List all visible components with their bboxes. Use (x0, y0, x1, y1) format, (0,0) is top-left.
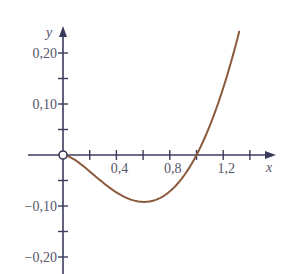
x-tick-label: 0,4 (111, 161, 129, 176)
x-tick-label: 0,8 (164, 161, 182, 176)
y-tick-label: −0,10 (25, 199, 57, 214)
y-axis-arrow-icon (59, 26, 67, 37)
x-axis-label: x (265, 160, 273, 175)
chart: 0,40,81,20,200,10−0,10−0,20 x y (0, 0, 288, 274)
function-curve (63, 32, 239, 202)
open-circle-origin (59, 151, 67, 159)
x-tick-label: 1,2 (217, 161, 235, 176)
y-tick-label: 0,10 (33, 97, 58, 112)
axes (28, 26, 276, 274)
y-axis-label: y (44, 25, 53, 40)
x-axis-arrow-icon (265, 151, 276, 159)
y-tick-label: 0,20 (33, 46, 58, 61)
y-tick-label: −0,20 (25, 250, 57, 265)
